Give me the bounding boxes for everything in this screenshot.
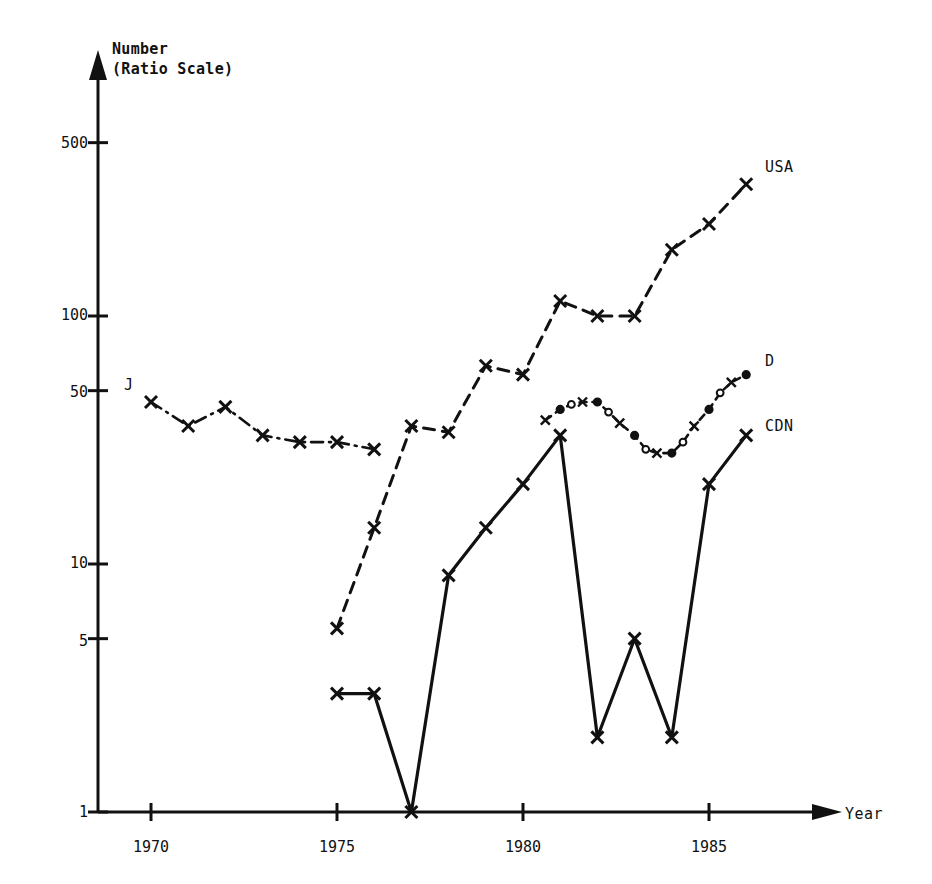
data-point-marker	[182, 420, 194, 432]
series-line-USA	[337, 184, 746, 628]
data-point-marker	[554, 295, 566, 307]
data-point-marker	[541, 416, 550, 425]
data-point-marker	[605, 409, 612, 416]
data-point-marker	[517, 478, 529, 490]
data-point-marker	[668, 450, 675, 457]
series-D	[541, 371, 750, 458]
data-point-marker	[557, 406, 564, 413]
y-axis-arrowhead	[89, 50, 107, 80]
data-point-marker	[680, 439, 687, 446]
data-point-marker	[480, 522, 492, 534]
series-line-J	[151, 402, 374, 449]
data-point-marker	[568, 401, 575, 408]
data-point-marker	[727, 378, 736, 387]
data-point-marker	[740, 429, 752, 441]
x-axis-arrowhead	[812, 804, 842, 820]
series-layer	[145, 178, 752, 818]
series-J	[145, 396, 380, 455]
data-point-marker	[705, 406, 712, 413]
data-point-marker	[743, 371, 750, 378]
series-line-CDN	[337, 435, 746, 812]
data-point-marker	[642, 446, 649, 453]
data-point-marker	[666, 244, 678, 256]
series-USA	[331, 178, 752, 634]
data-point-marker	[740, 178, 752, 190]
data-point-marker	[594, 398, 601, 405]
data-point-marker	[717, 389, 724, 396]
data-point-marker	[219, 401, 231, 413]
data-point-marker	[631, 432, 638, 439]
series-CDN	[331, 429, 752, 818]
axes-layer	[88, 50, 842, 821]
chart-plot-area	[0, 0, 932, 884]
data-point-marker	[690, 422, 699, 431]
series-line-D	[545, 375, 746, 453]
data-point-marker	[615, 419, 624, 428]
chart-figure: Number (Ratio Scale) 500 100 50 10 5 1 1…	[0, 0, 932, 884]
data-point-marker	[145, 396, 157, 408]
data-point-marker	[703, 218, 715, 230]
